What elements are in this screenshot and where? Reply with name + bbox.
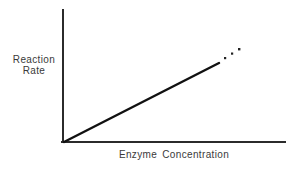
chart-plot-area	[0, 0, 292, 172]
x-axis-label: Enzyme Concentration	[63, 149, 285, 160]
y-axis-label: Reaction Rate	[8, 54, 60, 76]
y-axis-label-line-1: Reaction	[8, 54, 60, 65]
chart-figure: Reaction Rate Enzyme Concentration	[0, 0, 292, 172]
extrapolation-dot-1	[224, 57, 226, 59]
y-axis-label-line-2: Rate	[8, 65, 60, 76]
data-line-reaction-rate	[64, 63, 219, 142]
extrapolation-dot-2	[231, 53, 233, 55]
extrapolation-dot-3	[238, 48, 240, 50]
